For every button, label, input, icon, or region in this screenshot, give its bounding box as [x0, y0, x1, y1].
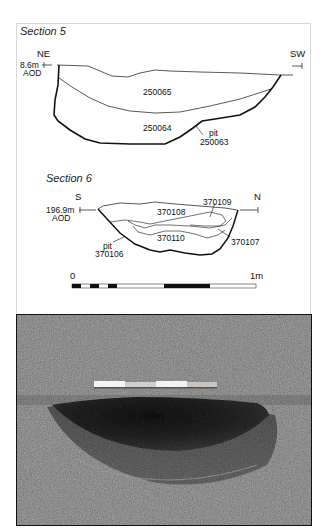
section-6-cut-id: 370106: [95, 250, 123, 258]
section-5-left-direction: NE: [37, 50, 50, 58]
section-6-title: Section 6: [46, 172, 92, 184]
scale-bar-end-label: 1m: [250, 272, 263, 280]
photo-scale-rod: [94, 381, 217, 389]
section-5-cut-id: 250063: [200, 138, 228, 146]
section-6-layer-label: 370108: [157, 208, 185, 216]
excavation-photo: [16, 314, 312, 526]
section-5-drawing: [42, 62, 302, 144]
section-5-layer-label: 250065: [143, 88, 171, 96]
scale-bar: [72, 284, 256, 288]
section-5-right-direction: SW: [290, 50, 305, 58]
section-5-datum-unit: AOD: [23, 69, 41, 77]
section-6-left-direction: S: [75, 193, 81, 201]
pit-photo-image: [17, 315, 312, 526]
section-5-title: Section 5: [20, 25, 66, 37]
section-5-layer-label: 250064: [143, 124, 171, 132]
section-6-datum-unit: AOD: [52, 214, 70, 222]
section-6-layer-label: 370110: [157, 234, 185, 242]
section-6-layer-label: 370107: [231, 238, 259, 246]
section-5-cut-label: pit: [209, 129, 218, 137]
scale-bar-start-label: 0: [70, 272, 75, 280]
section-6-right-direction: N: [254, 193, 261, 201]
section-6-layer-label: 370109: [203, 198, 231, 206]
